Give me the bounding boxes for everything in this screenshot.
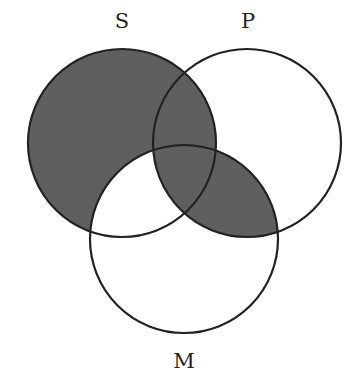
label-m: M [173, 349, 195, 373]
label-p: P [241, 9, 255, 33]
label-s: S [115, 9, 129, 33]
venn-diagram: S P M [0, 0, 359, 386]
